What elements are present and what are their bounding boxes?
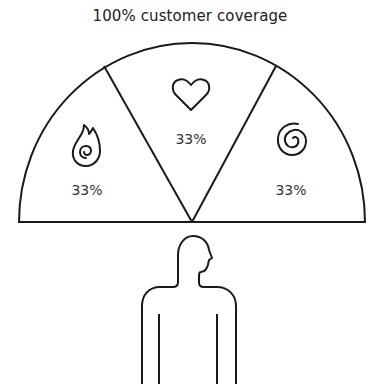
flame-spiral-icon bbox=[73, 125, 100, 166]
segment-middle-percent: 33% bbox=[161, 131, 221, 147]
spiral-icon bbox=[278, 124, 306, 155]
segment-left-percent: 33% bbox=[57, 182, 117, 198]
segment-right-percent: 33% bbox=[261, 182, 321, 198]
heart-icon bbox=[173, 79, 209, 110]
person-silhouette bbox=[142, 236, 236, 384]
